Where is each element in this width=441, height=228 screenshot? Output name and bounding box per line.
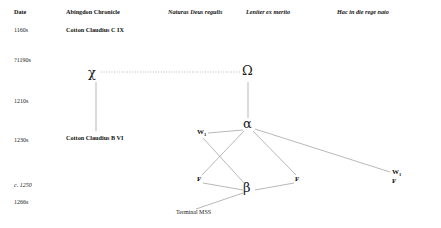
column-header-leniter-ex-merito: Leniter ex merito [246, 9, 290, 15]
node-chi: χ [88, 66, 96, 79]
node-cotton-claudius-c-ix: Cotton Claudius C IX [66, 27, 124, 33]
node-cotton-claudius-b-vi: Cotton Claudius B VI [66, 135, 123, 141]
date-tick-1190s: ?1190s [14, 57, 31, 63]
edge-alpha-wright [255, 129, 390, 172]
node-alpha: α [243, 117, 252, 130]
column-header-naturas-deus-regulis: Naturas Deus regulis [168, 9, 222, 15]
witness-letter: W [392, 168, 399, 176]
edge-alpha-fleft [202, 131, 244, 175]
witness-subscript: 1 [399, 172, 401, 177]
node-witness-w1-left: W1 [197, 129, 206, 138]
date-tick-1210s: 1210s [14, 98, 28, 104]
edge-beta-terminal [196, 193, 243, 209]
edge-alpha-fmid [253, 131, 296, 175]
witness-letter: F [197, 175, 201, 183]
edge-fmid-beta [255, 183, 294, 190]
stemma-edges-layer [0, 0, 441, 228]
date-tick-c-1250: c. 1250 [14, 182, 32, 188]
date-tick-1266s: 1266s [14, 199, 28, 205]
column-header-hac-in-die-rege-nato: Hac in die rege nato [337, 9, 389, 15]
date-tick-1230s: 1230s [14, 137, 28, 143]
column-header-date: Date [14, 9, 26, 15]
node-witness-f-right: F [392, 178, 396, 187]
date-tick-1160s: 1160s [14, 27, 28, 33]
edge-alpha-wleft [208, 130, 243, 133]
node-beta: β [243, 181, 251, 194]
node-terminal-mss: Terminal MSS [176, 209, 211, 215]
witness-letter: F [295, 175, 299, 183]
node-witness-f-left: F [197, 176, 201, 185]
edge-fleft-beta [203, 183, 243, 190]
column-header-abingdon-chronicle: Abingdon Chronicle [66, 9, 120, 15]
node-witness-f-mid: F [295, 176, 299, 185]
edge-wleft-beta [203, 138, 245, 184]
node-omega: Ω [242, 64, 253, 77]
stemma-figure: Date Abingdon Chronicle Naturas Deus reg… [0, 0, 441, 228]
witness-subscript: 1 [204, 132, 206, 137]
witness-letter: W [197, 128, 204, 136]
witness-letter: F [392, 177, 396, 185]
